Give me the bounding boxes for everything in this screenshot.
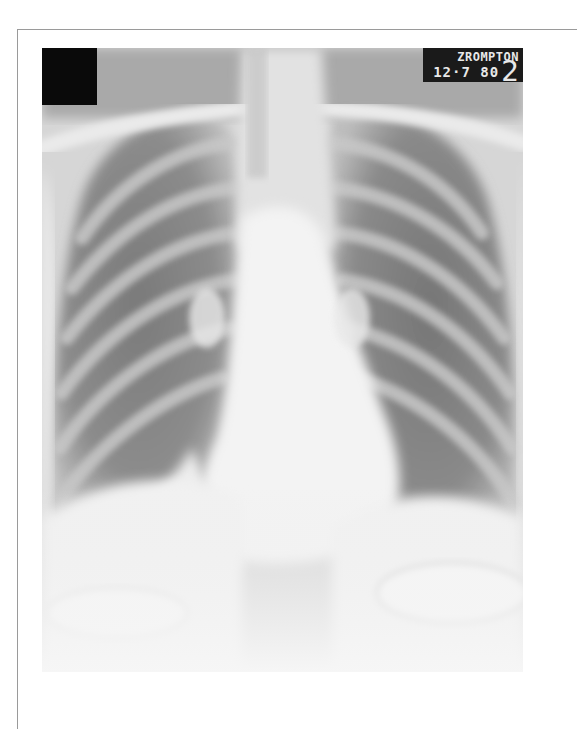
xray-illustration [42,48,523,672]
marker-date: 12·7 80 [433,65,499,79]
chest-xray-image: ZROMPTON 12·7 802 [42,48,523,672]
marker-side-digit: 2 [501,65,519,79]
film-corner-block [42,48,97,105]
film-id-marker: ZROMPTON 12·7 802 [423,48,523,82]
